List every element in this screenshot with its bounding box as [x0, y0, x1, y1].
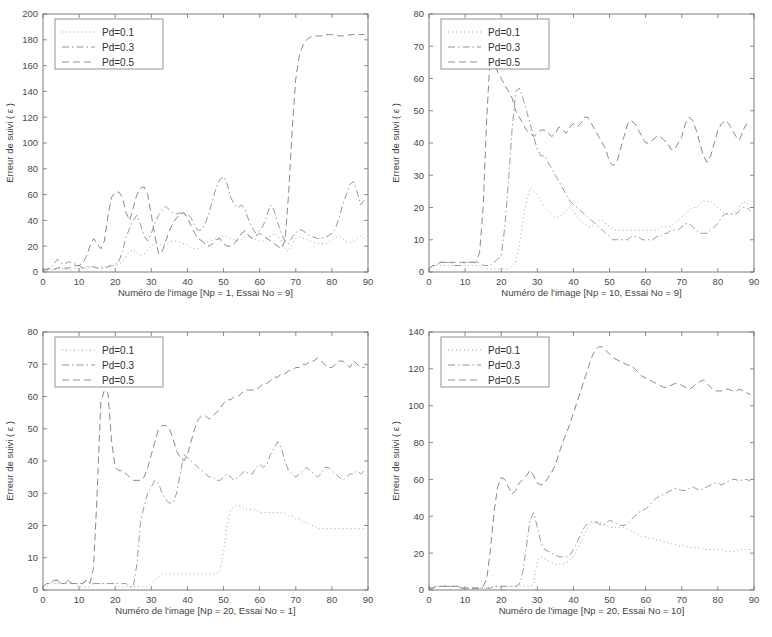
x-tick-label: 0	[40, 276, 45, 287]
x-axis-title: Numéro de l'image [Np = 1, Essai No = 9]	[118, 287, 293, 298]
y-tick-label: 40	[27, 455, 38, 466]
y-tick-label: 30	[413, 170, 424, 181]
x-axis-title: Numéro de l'image [Np = 20, Essai No = 1…	[115, 605, 295, 616]
x-tick-label: 50	[218, 276, 229, 287]
series-line-pd05	[43, 358, 364, 587]
x-tick-label: 20	[496, 594, 507, 605]
legend-label-pd03: Pd=0.3	[102, 42, 134, 53]
series-line-pd01	[429, 522, 750, 588]
legend-label-pd01: Pd=0.1	[488, 27, 520, 38]
series-line-pd03	[429, 88, 750, 269]
x-tick-label: 30	[146, 594, 157, 605]
x-tick-label: 40	[568, 594, 579, 605]
series-line-pd01	[43, 233, 364, 270]
y-tick-label: 0	[419, 266, 424, 277]
x-tick-label: 20	[110, 594, 121, 605]
y-axis-title: Erreur de suivi ( ε )	[4, 421, 15, 501]
y-tick-label: 100	[22, 137, 38, 148]
series-line-pd03	[429, 479, 750, 588]
legend-label-pd03: Pd=0.3	[102, 360, 134, 371]
y-tick-label: 20	[27, 241, 38, 252]
x-tick-label: 0	[426, 276, 431, 287]
y-tick-label: 60	[413, 73, 424, 84]
y-tick-label: 20	[413, 548, 424, 559]
y-tick-label: 120	[408, 363, 424, 374]
x-tick-label: 30	[146, 276, 157, 287]
x-tick-label: 10	[74, 276, 85, 287]
x-tick-label: 20	[110, 276, 121, 287]
y-tick-label: 50	[413, 105, 424, 116]
x-axis-title: Numéro de l'image [Np = 20, Essai No = 1…	[499, 605, 685, 616]
y-tick-label: 0	[419, 584, 424, 595]
x-tick-label: 60	[254, 594, 265, 605]
x-tick-label: 50	[218, 594, 229, 605]
y-tick-label: 40	[413, 137, 424, 148]
x-tick-label: 50	[604, 276, 615, 287]
x-tick-label: 0	[40, 594, 45, 605]
x-tick-label: 90	[749, 594, 760, 605]
x-tick-label: 70	[290, 594, 301, 605]
legend-label-pd05: Pd=0.5	[488, 375, 520, 386]
y-tick-label: 70	[27, 359, 38, 370]
x-tick-label: 80	[327, 276, 338, 287]
y-tick-label: 30	[27, 488, 38, 499]
y-tick-label: 60	[27, 391, 38, 402]
x-tick-label: 80	[327, 594, 338, 605]
legend-label-pd01: Pd=0.1	[102, 345, 134, 356]
y-tick-label: 60	[27, 189, 38, 200]
y-axis-title: Erreur de suivi ( ε )	[390, 421, 401, 501]
y-tick-label: 160	[22, 60, 38, 71]
x-tick-label: 30	[532, 276, 543, 287]
x-tick-label: 90	[363, 276, 374, 287]
series-line-pd05	[43, 35, 364, 270]
y-tick-label: 120	[22, 112, 38, 123]
y-tick-label: 140	[408, 326, 424, 337]
y-tick-label: 80	[413, 437, 424, 448]
x-tick-label: 10	[74, 594, 85, 605]
y-tick-label: 10	[27, 552, 38, 563]
x-tick-label: 10	[460, 276, 471, 287]
x-tick-label: 40	[182, 276, 193, 287]
y-tick-label: 50	[27, 423, 38, 434]
legend-label-pd03: Pd=0.3	[488, 42, 520, 53]
chart-panel-3: 010203040506070809001020304050607080Numé…	[0, 318, 386, 636]
x-tick-label: 70	[676, 594, 687, 605]
x-tick-label: 60	[640, 594, 651, 605]
chart-panel-2: 010203040506070809001020304050607080Numé…	[386, 0, 772, 318]
legend-label-pd05: Pd=0.5	[488, 57, 520, 68]
x-tick-label: 20	[496, 276, 507, 287]
y-tick-label: 80	[27, 163, 38, 174]
legend-label-pd01: Pd=0.1	[488, 345, 520, 356]
x-tick-label: 40	[182, 594, 193, 605]
y-tick-label: 40	[27, 215, 38, 226]
legend-label-pd01: Pd=0.1	[102, 27, 134, 38]
x-tick-label: 30	[532, 594, 543, 605]
y-tick-label: 20	[27, 520, 38, 531]
chart-panel-4: 0102030405060708090020406080100120140Num…	[386, 318, 772, 636]
x-axis-title: Numéro de l'image [Np = 10, Essai No = 9…	[501, 287, 681, 298]
y-tick-label: 60	[413, 474, 424, 485]
y-tick-label: 200	[22, 8, 38, 19]
y-tick-label: 10	[413, 234, 424, 245]
y-axis-title: Erreur de suivi ( ε )	[4, 103, 15, 183]
x-tick-label: 60	[254, 276, 265, 287]
series-line-pd01	[43, 506, 364, 587]
series-line-pd03	[43, 442, 364, 587]
y-tick-label: 80	[27, 326, 38, 337]
y-tick-label: 40	[413, 511, 424, 522]
y-tick-label: 180	[22, 34, 38, 45]
legend-label-pd05: Pd=0.5	[102, 57, 134, 68]
series-line-pd01	[429, 188, 750, 269]
x-tick-label: 40	[568, 276, 579, 287]
x-tick-label: 90	[363, 594, 374, 605]
y-tick-label: 0	[33, 584, 38, 595]
x-tick-label: 10	[460, 594, 471, 605]
y-tick-label: 70	[413, 41, 424, 52]
x-tick-label: 60	[640, 276, 651, 287]
legend-label-pd03: Pd=0.3	[488, 360, 520, 371]
series-line-pd03	[43, 177, 364, 271]
y-tick-label: 80	[413, 8, 424, 19]
y-tick-label: 140	[22, 86, 38, 97]
series-line-pd05	[429, 53, 750, 269]
figure-grid: 0102030405060708090020406080100120140160…	[0, 0, 772, 637]
